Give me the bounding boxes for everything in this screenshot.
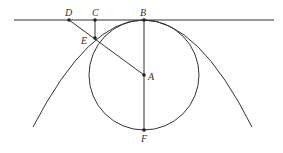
point-C <box>93 18 97 22</box>
segment-DA <box>69 20 144 75</box>
point-A <box>142 73 146 77</box>
label-E: E <box>80 35 87 46</box>
point-E <box>93 36 97 40</box>
point-F <box>142 128 146 132</box>
point-D <box>67 18 71 22</box>
label-A: A <box>147 71 155 82</box>
point-B <box>142 18 146 22</box>
label-B: B <box>140 7 146 18</box>
label-C: C <box>92 7 99 18</box>
label-F: F <box>140 133 148 144</box>
geometry-diagram: D C B E A F <box>0 0 283 153</box>
label-D: D <box>64 7 73 18</box>
